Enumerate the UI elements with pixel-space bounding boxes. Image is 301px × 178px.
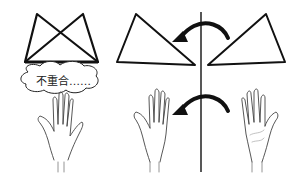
overlapping-triangles xyxy=(25,14,98,62)
diagram-canvas xyxy=(0,0,301,178)
flip-arrow-top xyxy=(172,23,228,42)
hand-right xyxy=(242,89,278,172)
triangle-right xyxy=(208,14,285,65)
hand-left-panel xyxy=(38,92,83,172)
speech-bubble-text: 不重合…… xyxy=(36,72,91,88)
flip-arrow-bottom xyxy=(172,96,228,115)
hand-left xyxy=(134,89,169,172)
